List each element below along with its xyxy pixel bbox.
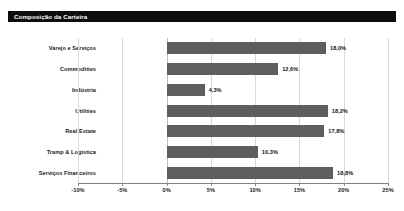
bar-value-label: 18,2% bbox=[332, 108, 348, 114]
x-tick-label: 20% bbox=[338, 187, 349, 193]
bar[interactable] bbox=[167, 42, 326, 54]
plot-area: 18,0%12,6%4,3%18,2%17,8%10,3%18,8% bbox=[78, 38, 388, 183]
bar-row: 18,8% bbox=[78, 162, 388, 183]
x-tick-mark bbox=[167, 183, 168, 186]
x-tick-mark bbox=[78, 183, 79, 186]
bar[interactable] bbox=[167, 146, 258, 158]
bar-value-label: 4,3% bbox=[209, 87, 222, 93]
bar-value-label: 10,3% bbox=[262, 149, 278, 155]
bar-value-label: 18,8% bbox=[337, 170, 353, 176]
bar[interactable] bbox=[167, 84, 205, 96]
bar-value-label: 12,6% bbox=[282, 66, 298, 72]
bars-layer: 18,0%12,6%4,3%18,2%17,8%10,3%18,8% bbox=[78, 38, 388, 183]
x-axis-tick-labels: -10%-5%0%5%10%15%20%25% bbox=[78, 187, 388, 199]
bar-row: 18,0% bbox=[78, 38, 388, 59]
x-tick-mark bbox=[344, 183, 345, 186]
bar-row: 18,2% bbox=[78, 100, 388, 121]
bar[interactable] bbox=[167, 167, 334, 179]
bar-row: 12,6% bbox=[78, 59, 388, 80]
chart-title-bar: Composição da Carteira bbox=[8, 11, 396, 22]
x-tick-mark bbox=[122, 183, 123, 186]
portfolio-composition-chart-panel: Composição da Carteira Varejo e Serviços… bbox=[0, 0, 404, 211]
x-tick-label: 5% bbox=[207, 187, 215, 193]
x-tick-mark bbox=[211, 183, 212, 186]
x-tick-label: 15% bbox=[294, 187, 305, 193]
x-tick-label: 0% bbox=[162, 187, 170, 193]
bar[interactable] bbox=[167, 105, 328, 117]
x-tick-label: 10% bbox=[249, 187, 260, 193]
bar-row: 17,8% bbox=[78, 121, 388, 142]
bar-row: 4,3% bbox=[78, 79, 388, 100]
bar[interactable] bbox=[167, 63, 279, 75]
gridline bbox=[388, 38, 389, 183]
x-tick-label: -5% bbox=[117, 187, 127, 193]
x-tick-mark bbox=[388, 183, 389, 186]
bar-row: 10,3% bbox=[78, 142, 388, 163]
bar-value-label: 18,0% bbox=[330, 45, 346, 51]
chart-title: Composição da Carteira bbox=[8, 11, 87, 22]
x-tick-label: -10% bbox=[71, 187, 84, 193]
bar[interactable] bbox=[167, 125, 325, 137]
x-tick-mark bbox=[255, 183, 256, 186]
x-tick-mark bbox=[299, 183, 300, 186]
bar-value-label: 17,8% bbox=[328, 128, 344, 134]
chart-plot-wrapper: Varejo e ServiçosCommoditiesIndústriaUti… bbox=[0, 30, 404, 211]
x-tick-label: 25% bbox=[382, 187, 393, 193]
